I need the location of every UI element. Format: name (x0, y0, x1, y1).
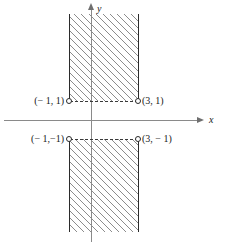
label-point-minus1-1: (− 1, 1) (14, 96, 64, 106)
boundary-line-y-equals-minus-1 (70, 139, 138, 140)
open-point-3-minus1 (135, 136, 141, 142)
open-point-minus1-minus1 (66, 136, 72, 142)
boundary-line-x-equals-minus-1-lower (69, 139, 70, 232)
boundary-line-x-equals-3-upper (138, 14, 139, 101)
boundary-line-x-equals-3-lower (138, 139, 139, 232)
x-axis (4, 120, 199, 121)
y-axis-arrow-icon (88, 3, 94, 10)
open-point-3-1 (135, 98, 141, 104)
coordinate-plane-figure: (− 1, 1) (3, 1) (− 1,−1) (3, − 1) x y (0, 0, 225, 249)
y-axis (91, 10, 92, 242)
boundary-line-y-equals-1 (70, 101, 138, 102)
open-point-minus1-1 (66, 98, 72, 104)
y-axis-label: y (97, 4, 101, 14)
label-point-minus1-minus1: (− 1,−1) (8, 134, 64, 144)
label-point-3-1: (3, 1) (142, 96, 164, 106)
label-point-3-minus1: (3, − 1) (142, 134, 172, 144)
shaded-region-lower (69, 139, 138, 232)
x-axis-label: x (209, 115, 213, 125)
x-axis-arrow-icon (197, 117, 204, 123)
boundary-line-x-equals-minus-1-upper (69, 14, 70, 101)
shaded-region-upper (69, 14, 138, 101)
